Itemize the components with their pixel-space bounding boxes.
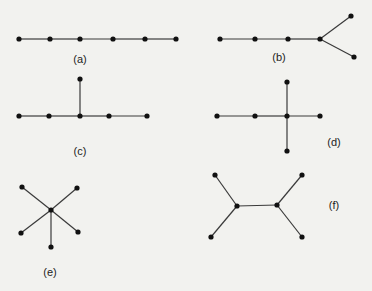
vertex-dot (75, 229, 80, 234)
vertex-dot (208, 234, 213, 239)
vertex-dot (274, 202, 279, 207)
graph-label-c: (c) (74, 145, 87, 157)
vertex-dot (46, 113, 51, 118)
vertex-dot (77, 76, 82, 81)
vertex-dot (351, 54, 356, 59)
vertex-dot (19, 184, 24, 189)
tree-diagram-figure: (a)(b)(c)(d)(e)(f) (0, 0, 372, 291)
edge (277, 205, 302, 237)
graph-label-d: (d) (327, 136, 340, 148)
edge (51, 210, 78, 232)
vertex-dot (48, 244, 53, 249)
edge (21, 210, 51, 233)
graph-b: (b) (217, 13, 356, 63)
vertex-dot (16, 36, 21, 41)
vertex-dot (18, 230, 23, 235)
edge (320, 39, 354, 57)
vertex-dot (74, 185, 79, 190)
vertex-dot (47, 36, 52, 41)
vertex-dot (299, 234, 304, 239)
vertex-dot (299, 172, 304, 177)
vertex-dot (144, 113, 149, 118)
vertex-dot (252, 113, 257, 118)
vertex-dot (317, 113, 322, 118)
edge (277, 175, 302, 205)
vertex-dot (77, 36, 82, 41)
graph-e: (e) (18, 184, 80, 278)
edge (237, 205, 277, 206)
graph-label-a: (a) (73, 53, 86, 65)
vertex-dot (77, 113, 82, 118)
vertex-dot (214, 113, 219, 118)
vertex-dot (348, 13, 353, 18)
tree-diagram-svg: (a)(b)(c)(d)(e)(f) (0, 0, 372, 291)
vertex-dot (284, 148, 289, 153)
graph-f: (f) (208, 172, 339, 239)
graph-label-f: (f) (329, 199, 339, 211)
edge (22, 187, 51, 210)
graph-label-b: (b) (272, 51, 285, 63)
vertex-dot (284, 113, 289, 118)
graph-label-e: (e) (43, 266, 56, 278)
vertex-dot (285, 36, 290, 41)
edge (320, 16, 351, 39)
graph-d: (d) (214, 79, 340, 153)
vertex-dot (48, 207, 53, 212)
graph-c: (c) (16, 76, 149, 157)
vertex-dot (142, 36, 147, 41)
vertex-dot (212, 172, 217, 177)
vertex-dot (110, 36, 115, 41)
vertex-dot (217, 36, 222, 41)
vertex-dot (317, 36, 322, 41)
graph-a: (a) (16, 36, 178, 65)
vertex-dot (284, 79, 289, 84)
edge (215, 175, 237, 206)
vertex-dot (234, 203, 239, 208)
vertex-dot (106, 113, 111, 118)
edge (211, 206, 237, 237)
vertex-dot (16, 113, 21, 118)
vertex-dot (252, 36, 257, 41)
vertex-dot (173, 36, 178, 41)
edge (51, 188, 77, 210)
